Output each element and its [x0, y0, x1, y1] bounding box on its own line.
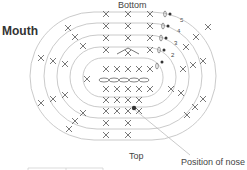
- round-outlines: [30, 12, 216, 155]
- crochet-chart: [0, 0, 247, 170]
- foundation-chain: [99, 78, 149, 82]
- chain-up-loops: [156, 11, 167, 69]
- nose-position-dot: [132, 106, 136, 110]
- legend-frame: [28, 168, 103, 170]
- single-crochet-stitches: [38, 11, 211, 138]
